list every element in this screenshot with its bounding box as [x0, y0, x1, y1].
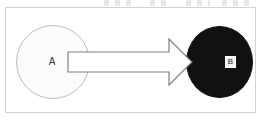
node-b-label: B: [225, 56, 236, 68]
node-a: A: [16, 25, 90, 99]
figure-root: A B: [0, 0, 263, 125]
scan-artifact-text-fragment: [186, 0, 210, 6]
scan-artifact-text-fragment: [150, 0, 166, 6]
node-a-label: A: [49, 57, 56, 67]
node-b: B: [186, 26, 253, 98]
scan-artifact-text-fragment: [104, 0, 134, 6]
scan-artifact-text-fragment: [222, 0, 250, 6]
